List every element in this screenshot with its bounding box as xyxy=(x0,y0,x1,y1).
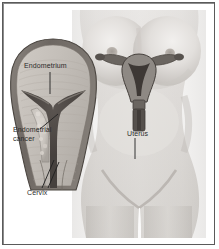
label-uterus: Uterus xyxy=(127,130,148,139)
vaginal-canal-lumen xyxy=(137,110,141,130)
cervix-leader-line xyxy=(36,158,60,192)
label-cervix: Cervix xyxy=(27,189,47,198)
uterus-leader-line xyxy=(128,138,152,162)
left-thigh-shading xyxy=(86,206,134,238)
cervix-organ xyxy=(133,100,145,110)
label-endometrium: Endometrium xyxy=(24,62,67,71)
endometrium-leader-line xyxy=(40,70,64,96)
label-endometrial-cancer-line2: cancer xyxy=(13,135,51,144)
right-ovary xyxy=(174,54,184,61)
label-endometrial-cancer: Endometrial cancer xyxy=(13,126,51,143)
label-endometrial-cancer-line1: Endometrial xyxy=(13,126,51,135)
right-thigh-shading xyxy=(144,206,192,238)
illustration-root: Endometrium Endometrial cancer Cervix Ut… xyxy=(0,0,219,249)
